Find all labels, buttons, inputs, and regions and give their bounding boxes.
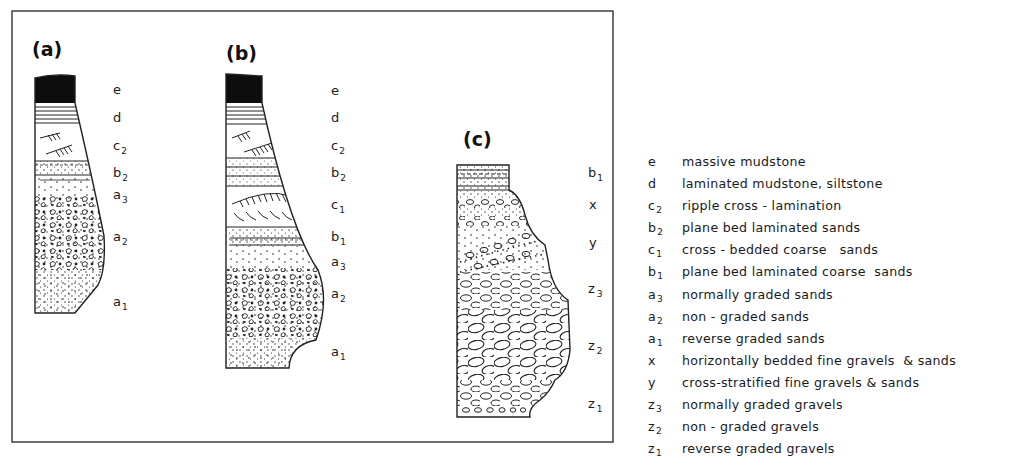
legend-desc: normally graded sands <box>682 286 833 308</box>
panel-a: (a) <box>30 38 128 316</box>
legend-desc: massive mudstone <box>682 153 806 175</box>
legend-item-z3: z3normally graded gravels <box>648 396 956 418</box>
panel-c-layer-z1: z1 <box>588 396 603 414</box>
legend-desc: plane bed laminated sands <box>682 219 860 241</box>
legend-item-e: emassive mudstone <box>648 153 956 175</box>
panel-c-layer-x: x <box>589 197 597 212</box>
panel-c-label: (c) <box>463 128 492 150</box>
legend: emassive mudstone dlaminated mudstone, s… <box>648 153 956 459</box>
legend-item-d: dlaminated mudstone, siltstone <box>648 175 956 197</box>
panel-a-column <box>30 70 120 316</box>
legend-desc: reverse graded sands <box>682 330 825 352</box>
panel-b-label: (b) <box>226 42 257 64</box>
panel-b-layer-a2: a2 <box>331 286 346 304</box>
legend-desc: non - graded sands <box>682 308 809 330</box>
panel-b-layer-a1: a1 <box>331 344 346 362</box>
panel-a-layer-e: e <box>113 82 121 97</box>
panel-a-layer-a2: a2 <box>113 229 128 247</box>
legend-desc: normally graded gravels <box>682 396 843 418</box>
legend-item-z1: z1reverse graded gravels <box>648 440 956 459</box>
legend-item-z2: z2non - graded gravels <box>648 418 956 440</box>
panel-a-layer-d: d <box>113 110 121 125</box>
panel-c-layer-y: y <box>589 235 597 250</box>
legend-item-c2: c2ripple cross - lamination <box>648 197 956 219</box>
panel-b-layer-a3: a3 <box>331 254 346 272</box>
panel-a-layer-a3: a3 <box>113 187 128 205</box>
panel-c: (c) <box>455 128 603 417</box>
legend-desc: non - graded gravels <box>682 418 819 440</box>
legend-desc: plane bed laminated coarse sands <box>682 263 913 285</box>
panel-b-layer-b1: b1 <box>331 229 346 247</box>
legend-item-a1: a1reverse graded sands <box>648 330 956 352</box>
legend-desc: reverse graded gravels <box>682 440 835 459</box>
legend-item-b2: b2plane bed laminated sands <box>648 219 956 241</box>
legend-item-y: ycross-stratified fine gravels & sands <box>648 374 956 396</box>
panel-a-label: (a) <box>32 38 62 60</box>
panel-b-column <box>220 70 340 371</box>
panel-b-layer-c1: c1 <box>331 197 345 215</box>
legend-desc: laminated mudstone, siltstone <box>682 175 883 197</box>
panel-a-layer-c2: c2 <box>113 138 127 156</box>
legend-desc: ripple cross - lamination <box>682 197 841 219</box>
panel-c-layer-z3: z3 <box>588 281 603 299</box>
legend-desc: cross-stratified fine gravels & sands <box>682 374 919 396</box>
legend-desc: cross - bedded coarse sands <box>682 241 878 263</box>
panel-b-layer-b2: b2 <box>331 165 346 183</box>
legend-item-a3: a3normally graded sands <box>648 286 956 308</box>
panel-b-layer-c2: c2 <box>331 138 345 156</box>
panel-c-layer-z2: z2 <box>588 338 603 356</box>
legend-item-b1: b1plane bed laminated coarse sands <box>648 263 956 285</box>
panel-b-layer-e: e <box>331 83 339 98</box>
legend-desc: horizontally bedded fine gravels & sands <box>682 352 956 374</box>
panel-a-layer-b2: b2 <box>113 165 128 183</box>
panel-b: (b) <box>220 42 346 371</box>
legend-item-x: xhorizontally bedded fine gravels & sand… <box>648 352 956 374</box>
legend-item-a2: a2non - graded sands <box>648 308 956 330</box>
panel-b-layer-d: d <box>331 110 339 125</box>
panel-c-layer-b1: b1 <box>588 165 603 183</box>
legend-item-c1: c1cross - bedded coarse sands <box>648 241 956 263</box>
panel-a-layer-a1: a1 <box>113 294 128 312</box>
